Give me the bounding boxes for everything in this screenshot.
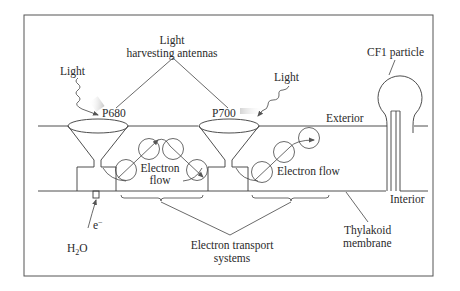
photosystem-p680 xyxy=(68,119,128,198)
electron-flow-left-line1: Electron xyxy=(141,162,180,174)
light-input-left: Light P680 xyxy=(60,65,126,119)
light-input-right: Light P700 xyxy=(212,71,300,119)
interior-label: Interior xyxy=(390,193,425,205)
exterior-label: Exterior xyxy=(326,112,364,124)
electron-flow-right: Electron flow xyxy=(277,165,341,177)
water-label: H2O xyxy=(67,242,88,257)
electron-flow-left-line2: flow xyxy=(149,174,171,186)
antennas-label-line2: harvesting antennas xyxy=(126,47,218,60)
cf1-label: CF1 particle xyxy=(367,46,424,59)
light-label-left: Light xyxy=(60,65,86,78)
water-oxidation-site xyxy=(93,191,99,198)
ets-label-line1: Electron transport xyxy=(191,239,275,252)
membrane-label-line2: membrane xyxy=(343,237,392,249)
electron-transport-braces: Electron transport systems xyxy=(121,195,329,265)
cf1-particle xyxy=(378,76,422,191)
p700-label: P700 xyxy=(212,107,236,119)
water-electron-input: e− H2O xyxy=(67,200,103,257)
photosynthesis-diagram: Light harvesting antennas Light P680 Lig… xyxy=(0,0,460,291)
light-label-right: Light xyxy=(274,71,300,84)
antennas-callout: Light harvesting antennas xyxy=(116,34,228,108)
antennas-label-line1: Light xyxy=(160,34,186,47)
p680-label: P680 xyxy=(102,107,126,119)
ets-label-line2: systems xyxy=(214,252,251,265)
thylakoid-membrane-callout: Thylakoid membrane xyxy=(343,192,392,249)
electron-label: e− xyxy=(93,218,103,231)
membrane-label-line1: Thylakoid xyxy=(344,224,392,237)
